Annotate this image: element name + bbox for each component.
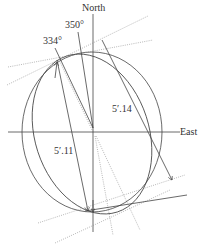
north-label: North [82,3,105,13]
angle-350-label: 350° [65,20,84,30]
distance-5-14-label: 5′.14 [112,104,132,114]
radial-line [95,136,113,235]
tangent-line [55,190,170,243]
radial-line [96,136,140,230]
tangent-solid-line [85,195,187,211]
arrow-small-top [55,62,57,78]
arrow-5-11 [57,60,88,211]
orbit-diagram [0,0,202,251]
direction-350-line [78,32,93,128]
distance-5-11-label: 5′.11 [54,146,73,156]
east-label: East [180,127,197,137]
direction-334-line [55,48,93,128]
tangent-line [8,40,153,67]
angle-334-label: 334° [43,36,62,46]
